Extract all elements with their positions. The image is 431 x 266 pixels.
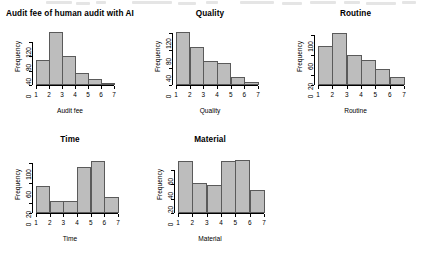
histogram-bar: [231, 77, 245, 85]
histogram-bar: [176, 32, 190, 85]
y-tick-label: 60: [167, 170, 174, 192]
bar-series: [176, 29, 258, 85]
chart-panel-material: Material12345670204060FrequencyMaterial: [140, 133, 280, 266]
x-axis-title: Material: [140, 235, 280, 242]
histogram-bar: [235, 160, 250, 213]
artifact-mark: [206, 1, 218, 4]
histogram-bar: [104, 197, 118, 214]
x-tick-label: 6: [97, 219, 111, 226]
plot-area: [318, 29, 404, 85]
x-tick-label: 3: [200, 219, 214, 226]
chart-panel-quality: Quality123456704080120FrequencyQuality: [140, 7, 280, 133]
x-tick-label: 5: [228, 219, 242, 226]
histogram-bar: [36, 186, 50, 214]
y-tick-label: 60: [307, 55, 314, 77]
x-tick-label: 7: [397, 91, 411, 98]
plot-area: [176, 29, 258, 85]
histogram-bar: [207, 185, 222, 213]
chart-title: Routine: [280, 9, 431, 18]
x-tick-label: 7: [257, 219, 271, 226]
histogram-grid: Audit fee of human audit with AI12345670…: [0, 7, 431, 266]
plot-area: [178, 157, 264, 213]
x-tick-label: 3: [196, 91, 210, 98]
y-axis-line: [32, 163, 33, 213]
x-tick-label: 2: [325, 91, 339, 98]
x-tick: [50, 214, 51, 217]
chart-title: Material: [140, 135, 280, 144]
artifact-mark: [402, 1, 416, 4]
x-tick: [75, 86, 76, 89]
histogram-bar: [250, 190, 265, 213]
x-axis-title: Quality: [140, 107, 280, 114]
x-tick-label: 2: [43, 219, 57, 226]
x-tick: [347, 86, 348, 89]
x-tick: [203, 86, 204, 89]
x-tick: [250, 214, 251, 217]
x-tick: [264, 214, 265, 217]
x-tick-label: 2: [185, 219, 199, 226]
x-tick-label: 6: [383, 91, 397, 98]
x-tick: [178, 214, 179, 217]
bar-series: [36, 157, 118, 213]
chart-title: Time: [0, 135, 140, 144]
y-tick-label: 20: [25, 203, 32, 225]
plot-area: [36, 157, 118, 213]
y-tick-label: 100: [25, 163, 32, 185]
x-tick-label: 6: [243, 219, 257, 226]
histogram-bar: [203, 61, 217, 85]
x-tick: [176, 86, 177, 89]
histogram-bar: [217, 63, 231, 85]
x-tick-label: 5: [368, 91, 382, 98]
x-tick: [49, 86, 50, 89]
x-tick: [404, 86, 405, 89]
histogram-bar: [221, 161, 236, 213]
y-axis-title: Frequency: [14, 41, 21, 72]
x-tick-label: 2: [183, 91, 197, 98]
artifact-mark: [96, 1, 106, 4]
histogram-bar: [318, 46, 333, 86]
x-tick: [91, 214, 92, 217]
artifact-mark: [282, 2, 302, 5]
x-tick-label: 4: [70, 219, 84, 226]
x-tick-label: 6: [94, 91, 108, 98]
x-tick: [36, 86, 37, 89]
top-artifact-strip: [0, 0, 431, 7]
x-tick-label: 5: [84, 219, 98, 226]
x-tick: [36, 214, 37, 217]
y-axis-title: Frequency: [296, 41, 303, 72]
x-tick-label: 6: [237, 91, 251, 98]
chart-panel-time: Time123456702060100FrequencyTime: [0, 133, 140, 266]
x-tick-label: 4: [210, 91, 224, 98]
x-tick: [235, 214, 236, 217]
artifact-mark: [310, 1, 336, 4]
x-tick-label: 3: [56, 219, 70, 226]
x-tick: [221, 214, 222, 217]
x-tick: [114, 86, 115, 89]
x-tick-label: 5: [224, 91, 238, 98]
chart-title: Audit fee of human audit with AI: [0, 9, 140, 18]
y-axis-line: [172, 33, 173, 86]
y-axis-title: Frequency: [156, 169, 163, 200]
x-axis-title: Routine: [280, 107, 431, 114]
x-tick: [104, 214, 105, 217]
bar-series: [318, 29, 404, 85]
y-tick-label: 100: [307, 35, 314, 57]
artifact-mark: [366, 2, 396, 5]
chart-panel-audit-fee-of-human-audit-with-ai: Audit fee of human audit with AI12345670…: [0, 7, 140, 133]
histogram-bar: [50, 201, 64, 214]
bar-series: [178, 157, 264, 213]
artifact-mark: [132, 1, 172, 4]
histogram-bar: [190, 47, 204, 85]
x-tick-label: 3: [55, 91, 69, 98]
histogram-bar: [36, 60, 50, 85]
histogram-bar: [77, 167, 91, 213]
artifact-mark: [46, 1, 72, 4]
x-tick-label: 4: [214, 219, 228, 226]
artifact-mark: [240, 1, 274, 4]
bar-series: [36, 29, 114, 85]
x-tick: [361, 86, 362, 89]
x-tick: [258, 86, 259, 89]
plot-area: [36, 29, 114, 85]
y-axis-title: Frequency: [14, 169, 21, 200]
x-tick: [101, 86, 102, 89]
